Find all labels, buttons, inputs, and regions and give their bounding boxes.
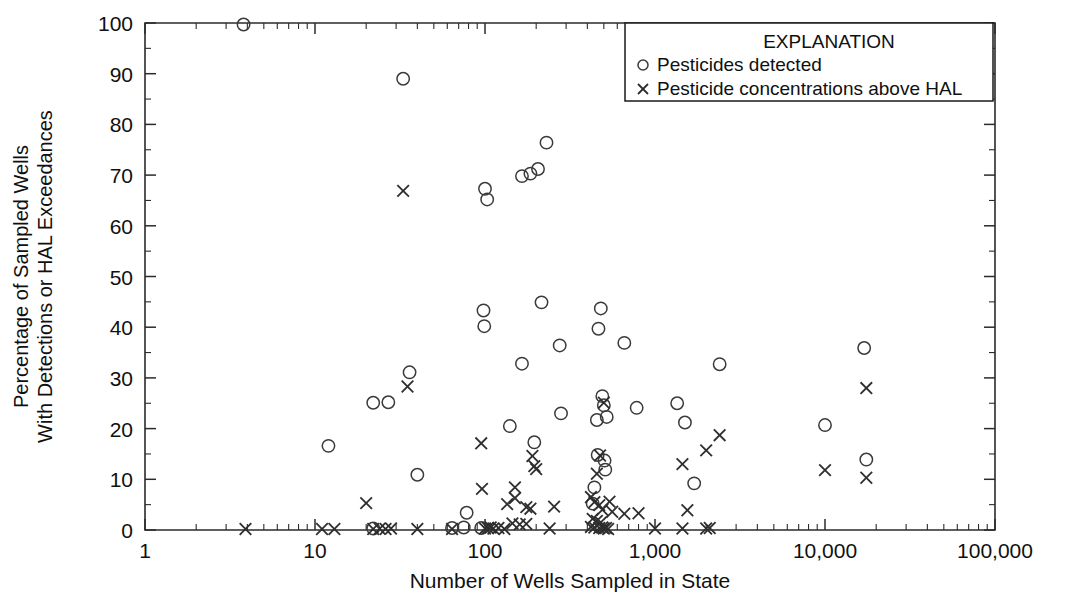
data-point-circle [516, 170, 528, 182]
data-point-circle [322, 440, 334, 452]
data-point-circle [819, 419, 831, 431]
data-point-circle [679, 416, 691, 428]
data-point-circle [535, 296, 547, 308]
y-tick-label: 100 [98, 12, 133, 35]
data-point-circle [630, 402, 642, 414]
x-tick-label: 100,000 [957, 539, 1033, 562]
data-point-circle [477, 304, 489, 316]
data-point-circle [382, 396, 394, 408]
y-tick-label: 70 [110, 164, 133, 187]
y-tick-label: 20 [110, 418, 133, 441]
data-point-circle [671, 397, 683, 409]
y-tick-label: 10 [110, 468, 133, 491]
data-point-circle [713, 358, 725, 370]
data-point-circle [478, 320, 490, 332]
y-tick-label: 90 [110, 63, 133, 86]
scatter-plot-figure: 01020304050607080901001101001,00010,0001… [0, 0, 1065, 608]
y-axis-title-line2: With Detections or HAL Exceedances [34, 110, 56, 443]
data-point-circle [588, 481, 600, 493]
x-axis-title: Number of Wells Sampled in State [410, 569, 731, 592]
data-point-circle [553, 339, 565, 351]
data-point-circle [688, 477, 700, 489]
data-point-circle [528, 436, 540, 448]
data-point-circle [504, 420, 516, 432]
x-tick-label: 1,000 [629, 539, 682, 562]
data-point-circle [237, 18, 249, 30]
data-point-circle [592, 323, 604, 335]
x-tick-label: 1 [139, 539, 151, 562]
data-point-circle [618, 337, 630, 349]
y-axis-title-line1: Percentage of Sampled Wells [10, 145, 32, 408]
y-tick-label: 50 [110, 266, 133, 289]
series-above-hal [240, 185, 872, 535]
legend-label: Pesticide concentrations above HAL [657, 78, 962, 99]
data-point-circle [595, 302, 607, 314]
data-point-circle [540, 136, 552, 148]
x-tick-label: 100 [467, 539, 502, 562]
y-tick-label: 40 [110, 316, 133, 339]
x-tick-label: 10,000 [793, 539, 857, 562]
data-point-circle [860, 453, 872, 465]
data-point-circle [460, 507, 472, 519]
y-tick-label: 60 [110, 215, 133, 238]
data-point-circle [403, 366, 415, 378]
data-point-circle [858, 342, 870, 354]
data-point-circle [367, 397, 379, 409]
chart-canvas: 01020304050607080901001101001,00010,0001… [0, 0, 1065, 608]
legend-label: Pesticides detected [657, 54, 822, 75]
y-tick-label: 30 [110, 367, 133, 390]
y-tick-label: 0 [121, 519, 133, 542]
x-tick-label: 10 [303, 539, 326, 562]
legend-title: EXPLANATION [763, 31, 895, 52]
data-point-circle [598, 399, 610, 411]
data-point-circle [411, 469, 423, 481]
legend: EXPLANATIONPesticides detectedPesticide … [625, 23, 993, 101]
y-tick-label: 80 [110, 113, 133, 136]
data-point-circle [397, 73, 409, 85]
data-point-circle [516, 358, 528, 370]
data-point-circle [555, 407, 567, 419]
